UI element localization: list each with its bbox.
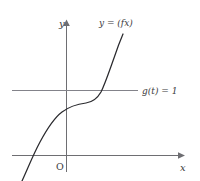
x-axis-arrow-icon	[178, 152, 185, 159]
x-axis-label: x	[180, 162, 186, 173]
function-curve	[22, 34, 123, 181]
graph-figure: y x O y = (fx) g(t) = 1	[0, 0, 200, 181]
x-axis	[12, 152, 185, 159]
y-axis-label: y	[58, 18, 65, 29]
origin-label: O	[56, 161, 64, 172]
constant-line-label: g(t) = 1	[142, 86, 177, 96]
y-axis	[63, 20, 70, 173]
function-label: y = (fx)	[98, 18, 133, 28]
coordinate-plot-svg: y x O y = (fx) g(t) = 1	[0, 0, 200, 181]
